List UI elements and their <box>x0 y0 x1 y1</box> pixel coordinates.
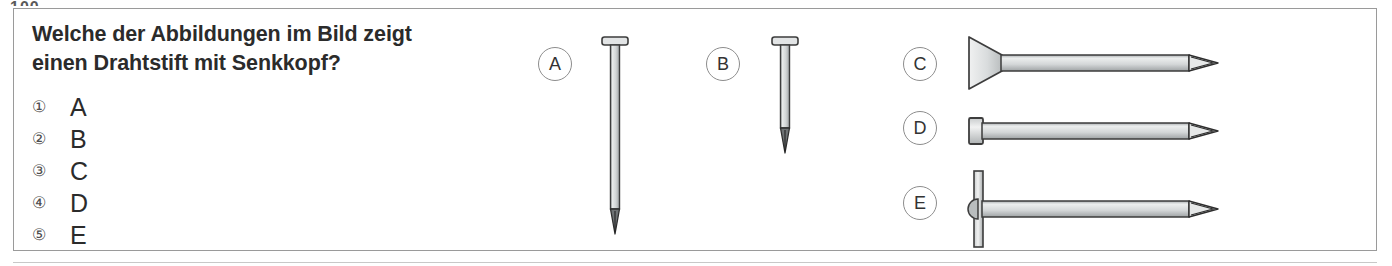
list-item[interactable]: ④ D <box>32 187 332 219</box>
option-label-2: B <box>64 127 87 152</box>
option-number-1: ① <box>32 99 64 115</box>
option-number-5: ⑤ <box>32 227 64 243</box>
nail-figure-c <box>960 31 1226 95</box>
cut-off-page-number: 100 <box>10 0 70 6</box>
nail-figure-e <box>960 166 1226 252</box>
figure-marker-d: D <box>903 111 937 145</box>
figure-marker-b: B <box>706 47 740 81</box>
list-item[interactable]: ⑤ E <box>32 219 332 251</box>
option-label-3: C <box>64 159 88 184</box>
list-item[interactable]: ① A <box>32 91 332 123</box>
question-page: 100 Welche der Abbildungen im Bild zeigt… <box>0 0 1392 266</box>
list-item[interactable]: ③ C <box>32 155 332 187</box>
option-number-2: ② <box>32 131 64 147</box>
page-title: Welche der Abbildungen im Bild zeigt ein… <box>32 20 492 78</box>
option-label-4: D <box>64 191 88 216</box>
option-number-4: ④ <box>32 195 64 211</box>
nail-figure-b <box>762 33 808 163</box>
nail-figure-a <box>592 33 638 239</box>
answer-options-list: ① A ② B ③ C ④ D ⑤ E <box>32 91 332 251</box>
nail-figure-d <box>960 109 1226 159</box>
figure-marker-a: A <box>538 47 572 81</box>
bottom-divider <box>13 262 1377 263</box>
option-label-1: A <box>64 95 87 120</box>
question-line-1: Welche der Abbildungen im Bild zeigt <box>32 20 492 49</box>
question-line-2: einen Drahtstift mit Senkkopf? <box>32 49 492 78</box>
figure-marker-c: C <box>903 47 937 81</box>
figure-marker-e: E <box>903 186 937 220</box>
option-number-3: ③ <box>32 163 64 179</box>
list-item[interactable]: ② B <box>32 123 332 155</box>
question-box: Welche der Abbildungen im Bild zeigt ein… <box>13 8 1377 251</box>
option-label-5: E <box>64 223 87 248</box>
